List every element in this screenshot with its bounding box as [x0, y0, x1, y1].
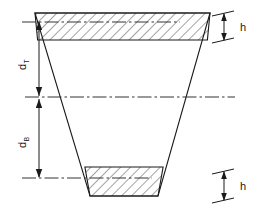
- dim-label-dt-main: d: [16, 64, 28, 70]
- dim-label-dt-subscript: T: [23, 59, 30, 64]
- height-label-top: h: [240, 21, 246, 33]
- dim-arrow-db-bottom: [36, 169, 42, 178]
- left-dimension-chain: [36, 21, 42, 178]
- height-dimension-top: h: [212, 11, 246, 43]
- height-dimension-bottom: h: [212, 169, 246, 203]
- dim-arrow-db-top: [36, 99, 42, 108]
- dim-label-dt: d T: [16, 59, 30, 71]
- height-bottom-upper-tick: [212, 169, 234, 174]
- v-belt-cross-section-figure: d T d B h h: [0, 0, 259, 214]
- dim-arrow-dt-bottom: [36, 87, 42, 96]
- dim-label-db-main: d: [16, 142, 28, 148]
- bottom-section-band: [80, 162, 170, 202]
- height-bottom-lower-tick: [212, 198, 234, 203]
- dim-label-db-subscript: B: [23, 137, 30, 142]
- height-top-upper-tick: [212, 11, 234, 16]
- height-label-bottom: h: [240, 180, 246, 192]
- technical-drawing-canvas: d T d B h h: [0, 0, 259, 214]
- dim-label-db: d B: [16, 137, 30, 149]
- height-top-lower-tick: [212, 38, 234, 43]
